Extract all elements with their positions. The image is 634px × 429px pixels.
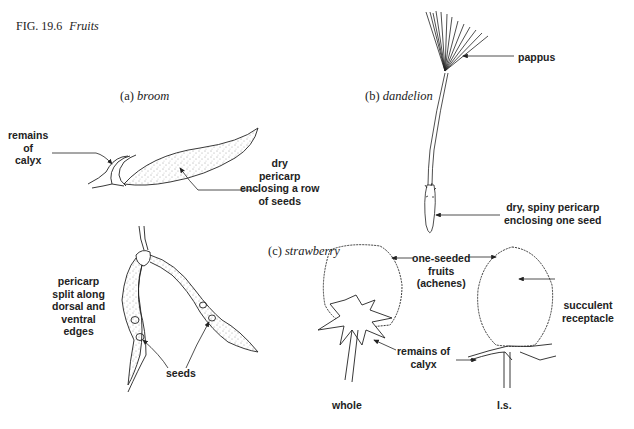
- label-line: enclosing a row: [240, 182, 319, 195]
- label-line: receptacle: [562, 312, 614, 325]
- label-line: calyx: [397, 358, 450, 371]
- label-dry-pericarp: dry pericarp enclosing a row of seeds: [240, 157, 319, 207]
- label-remains-of-calyx-broom: remains of calyx: [8, 129, 48, 167]
- label-line: calyx: [8, 154, 48, 167]
- label-line: pericarp: [240, 170, 319, 183]
- label-line: succulent: [562, 299, 614, 312]
- label-line: pericarp: [52, 275, 105, 288]
- label-line: remains of: [397, 345, 450, 358]
- label-ls: l.s.: [497, 399, 512, 412]
- label-line: fruits: [412, 265, 470, 278]
- label-line: remains: [8, 129, 48, 142]
- label-line: split along: [52, 288, 105, 301]
- label-one-seeded-fruits: one-seeded fruits (achenes): [412, 252, 470, 290]
- label-seeds: seeds: [166, 367, 196, 380]
- label-line: enclosing one seed: [504, 214, 601, 227]
- label-pericarp-split: pericarp split along dorsal and ventral …: [52, 275, 105, 338]
- strawberry-whole: [318, 245, 402, 382]
- label-pappus: pappus: [518, 51, 555, 64]
- broom-closed-pod: [88, 128, 258, 188]
- label-dry-spiny-pericarp: dry, spiny pericarp enclosing one seed: [504, 201, 601, 226]
- label-line: of seeds: [240, 195, 319, 208]
- label-line: of: [8, 142, 48, 155]
- label-succulent-receptacle: succulent receptacle: [562, 299, 614, 324]
- label-line: (achenes): [412, 277, 470, 290]
- dandelion-fruit: [425, 11, 488, 233]
- label-remains-of-calyx-strawberry: remains of calyx: [397, 345, 450, 370]
- label-line: edges: [52, 325, 105, 338]
- strawberry-ls: [468, 247, 556, 388]
- label-line: dry, spiny pericarp: [504, 201, 601, 214]
- label-line: dorsal and: [52, 300, 105, 313]
- figure-fruits: FIG. 19.6 Fruits (a) broom (b) dandelion…: [0, 0, 634, 429]
- label-line: one-seeded: [412, 252, 470, 265]
- label-line: dry: [240, 157, 319, 170]
- label-whole: whole: [332, 399, 362, 412]
- label-line: ventral: [52, 313, 105, 326]
